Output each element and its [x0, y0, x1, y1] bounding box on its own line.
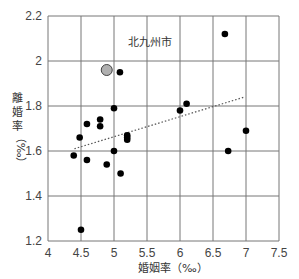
y-tick-label: 1.4	[25, 189, 42, 203]
data-point	[84, 157, 91, 164]
trendline	[74, 97, 244, 149]
data-point	[76, 134, 83, 141]
y-tick-label: 1.2	[25, 234, 42, 248]
data-point	[97, 123, 104, 130]
highlight-point-kitakyushu	[101, 65, 112, 76]
data-point	[97, 116, 104, 123]
y-tick-label: 2	[35, 54, 42, 68]
data-point	[177, 107, 184, 114]
data-point	[183, 100, 190, 107]
data-point	[84, 121, 91, 128]
x-tick-label: 7	[243, 246, 250, 260]
data-point	[124, 136, 131, 143]
x-tick-label: 4.5	[73, 246, 90, 260]
data-point	[111, 105, 118, 112]
data-point	[70, 152, 77, 159]
data-point	[222, 31, 229, 38]
x-tick-label: 5.5	[139, 246, 156, 260]
data-point	[225, 148, 232, 155]
x-tick-label: 5	[111, 246, 118, 260]
y-label-unit: （‰）	[14, 132, 27, 169]
x-axis-label: 婚姻率（‰）	[138, 261, 208, 275]
x-tick-label: 6	[177, 246, 184, 260]
data-point	[117, 69, 124, 76]
data-point	[103, 161, 110, 168]
x-tick-label: 6.5	[205, 246, 222, 260]
y-tick-label: 1.8	[25, 99, 42, 113]
data-point	[243, 127, 250, 134]
x-tick-label: 7.5	[271, 246, 288, 260]
x-tick-label: 4	[45, 246, 52, 260]
trendline-path	[74, 97, 244, 149]
data-point	[117, 170, 124, 177]
y-tick-label: 2.2	[25, 9, 42, 23]
city-annotation: 北九州市	[128, 35, 172, 49]
data-point	[111, 148, 118, 155]
y-label-char: 婚	[12, 105, 23, 119]
scatter-chart: 44.555.566.577.51.21.41.61.822.2 北九州市 婚姻…	[0, 0, 299, 279]
data-point	[78, 226, 85, 233]
y-label-char: 離	[12, 91, 23, 105]
